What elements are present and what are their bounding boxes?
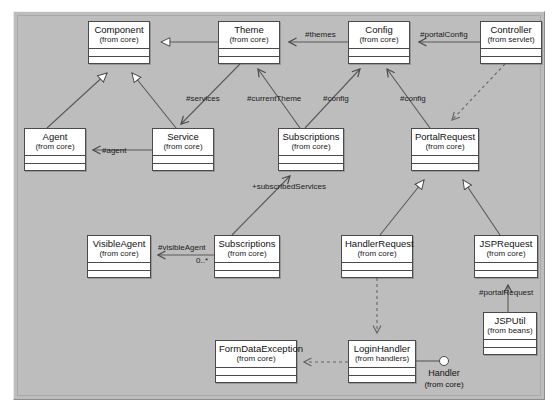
class-name: Controller	[484, 24, 538, 35]
class-name: Config	[352, 24, 406, 35]
class-attributes	[89, 49, 149, 57]
class-box-jsprequest[interactable]: JSPRequest (from core)	[474, 235, 538, 278]
edge-label-currenttheme: #currentTheme	[247, 94, 301, 103]
class-name: Service	[156, 131, 210, 142]
class-header: Controller (from servlet)	[481, 22, 541, 49]
class-package: (from core)	[478, 249, 534, 259]
class-operations	[349, 57, 409, 67]
class-package: (from core)	[222, 35, 276, 45]
class-name: HandlerRequest	[345, 238, 409, 249]
edge-label-services: #services	[186, 94, 220, 103]
class-operations	[412, 164, 478, 174]
class-box-jsputil[interactable]: JSPUtil (from beans)	[483, 312, 537, 355]
class-attributes	[215, 263, 279, 271]
class-header: Agent (from core)	[25, 129, 85, 156]
class-header: VisibleAgent (from core)	[88, 236, 150, 263]
class-header: JSPRequest (from core)	[475, 236, 537, 263]
class-name: JSPUtil	[487, 315, 533, 326]
class-box-visibleagent[interactable]: VisibleAgent (from core)	[87, 235, 151, 278]
class-operations	[481, 57, 541, 67]
class-attributes	[279, 156, 343, 164]
edge-label-config-left: #config	[323, 94, 349, 103]
class-attributes	[349, 368, 415, 376]
class-operations	[88, 271, 150, 281]
class-name: LoginHandler	[352, 343, 412, 354]
class-package: (from core)	[415, 142, 475, 152]
class-header: Subscriptions (from core)	[215, 236, 279, 263]
class-operations	[216, 376, 296, 386]
class-box-handlerrequest[interactable]: HandlerRequest (from core)	[341, 235, 413, 278]
class-header: HandlerRequest (from core)	[342, 236, 412, 263]
class-attributes	[219, 49, 279, 57]
class-box-portalrequest[interactable]: PortalRequest (from core)	[411, 128, 479, 171]
class-package: (from core)	[28, 142, 82, 152]
class-operations	[215, 271, 279, 281]
class-operations	[342, 271, 412, 281]
edge-label-portalrequest: #portalRequest	[479, 288, 533, 297]
class-name: PortalRequest	[415, 131, 475, 142]
interface-package: (from core)	[414, 379, 474, 390]
class-box-theme[interactable]: Theme (from core)	[218, 21, 280, 64]
class-package: (from core)	[345, 249, 409, 259]
class-operations	[153, 164, 213, 174]
class-attributes	[342, 263, 412, 271]
class-header: PortalRequest (from core)	[412, 129, 478, 156]
class-box-agent[interactable]: Agent (from core)	[24, 128, 86, 171]
class-operations	[25, 164, 85, 174]
interface-label-handler: Handler (from core)	[414, 368, 474, 390]
class-box-subscriptions-mid[interactable]: Subscriptions (from core)	[214, 235, 280, 278]
class-operations	[279, 164, 343, 174]
class-header: Subscriptions (from core)	[279, 129, 343, 156]
interface-name: Handler	[428, 368, 460, 378]
class-header: Theme (from core)	[219, 22, 279, 49]
class-package: (from core)	[91, 249, 147, 259]
class-attributes	[484, 340, 536, 348]
class-box-config[interactable]: Config (from core)	[348, 21, 410, 64]
class-attributes	[153, 156, 213, 164]
edge-label-subscribedservices: +subscribedServices	[252, 182, 326, 191]
class-package: (from core)	[352, 35, 406, 45]
class-operations	[89, 57, 149, 67]
class-attributes	[475, 263, 537, 271]
class-operations	[475, 271, 537, 281]
class-header: Config (from core)	[349, 22, 409, 49]
class-box-subscriptions-top[interactable]: Subscriptions (from core)	[278, 128, 344, 171]
class-name: Agent	[28, 131, 82, 142]
interface-lollipop-handler[interactable]	[439, 356, 449, 366]
edge-label-config-right: #config	[400, 94, 426, 103]
edge-label-portalconfig: #portalConfig	[420, 30, 468, 39]
class-name: FormDataException	[219, 343, 293, 354]
class-box-service[interactable]: Service (from core)	[152, 128, 214, 171]
class-box-controller[interactable]: Controller (from servlet)	[480, 21, 542, 64]
class-attributes	[481, 49, 541, 57]
edge-label-visibleagent: #visibleAgent	[158, 243, 206, 252]
class-package: (from beans)	[487, 326, 533, 336]
class-header: Service (from core)	[153, 129, 213, 156]
class-attributes	[412, 156, 478, 164]
class-package: (from core)	[219, 354, 293, 364]
class-operations	[484, 348, 536, 358]
class-name: VisibleAgent	[91, 238, 147, 249]
class-box-component[interactable]: Component (from core)	[88, 21, 150, 64]
class-package: (from servlet)	[484, 35, 538, 45]
class-box-formdataexception[interactable]: FormDataException (from core)	[215, 340, 297, 383]
class-name: Component	[92, 24, 146, 35]
edge-label-multiplicity: 0..*	[196, 256, 208, 265]
edge-label-agent: #agent	[102, 146, 126, 155]
class-name: Subscriptions	[218, 238, 276, 249]
class-header: FormDataException (from core)	[216, 341, 296, 368]
class-name: JSPRequest	[478, 238, 534, 249]
class-box-loginhandler[interactable]: LoginHandler (from handlers)	[348, 340, 416, 383]
diagram-canvas: Component (from core) Theme (from core) …	[0, 0, 558, 415]
class-package: (from core)	[156, 142, 210, 152]
class-operations	[219, 57, 279, 67]
class-attributes	[25, 156, 85, 164]
class-attributes	[216, 368, 296, 376]
class-package: (from core)	[218, 249, 276, 259]
class-name: Subscriptions	[282, 131, 340, 142]
class-attributes	[88, 263, 150, 271]
class-package: (from core)	[92, 35, 146, 45]
class-attributes	[349, 49, 409, 57]
edge-label-themes: #themes	[305, 30, 336, 39]
class-header: JSPUtil (from beans)	[484, 313, 536, 340]
